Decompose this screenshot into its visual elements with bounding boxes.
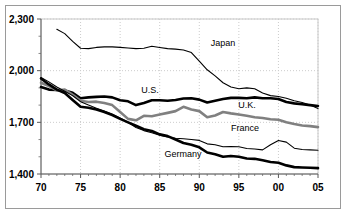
x-tick-label-00: 00 xyxy=(273,182,285,193)
x-tick-label-75: 75 xyxy=(75,182,87,193)
y-tick-label-2000: 2,000 xyxy=(9,65,34,76)
series-label-japan: Japan xyxy=(211,38,236,48)
y-tick-label-2300: 2,300 xyxy=(9,14,34,25)
chart-figure: 1,4001,7002,0002,300 7075808590950005 Ja… xyxy=(0,0,346,214)
series-label-france: France xyxy=(231,123,259,133)
y-tick-label-1700: 1,700 xyxy=(9,117,34,128)
y-tick-label-1400: 1,400 xyxy=(9,169,34,180)
series-label-germany: Germany xyxy=(164,149,202,159)
chart-plot-area: 1,4001,7002,0002,300 7075808590950005 Ja… xyxy=(0,0,346,214)
x-tick-label-90: 90 xyxy=(194,182,206,193)
series-label-us: U.S. xyxy=(141,85,159,95)
x-axis-tick-labels: 7075808590950005 xyxy=(35,182,324,193)
x-tick-label-95: 95 xyxy=(233,182,245,193)
line-chart-svg: 1,4001,7002,0002,300 7075808590950005 Ja… xyxy=(0,0,346,214)
x-tick-label-70: 70 xyxy=(35,182,47,193)
series-label-uk: U.K. xyxy=(238,100,256,110)
x-tick-label-80: 80 xyxy=(115,182,127,193)
y-axis-tick-labels: 1,4001,7002,0002,300 xyxy=(9,14,34,180)
x-tick-label-05: 05 xyxy=(312,182,324,193)
x-tick-label-85: 85 xyxy=(154,182,166,193)
